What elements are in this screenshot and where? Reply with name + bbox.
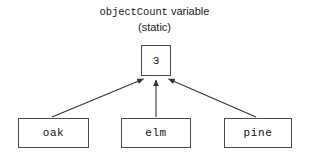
static-qualifier-label: (static) xyxy=(0,20,309,34)
static-variable-box: 3 xyxy=(141,45,171,76)
variable-name-label: objectCount xyxy=(100,6,168,18)
static-variable-value: 3 xyxy=(153,55,160,67)
object-box-elm: elm xyxy=(121,118,191,148)
arrow-oak-to-objectcount xyxy=(52,79,144,117)
object-box-label: pine xyxy=(244,127,273,139)
object-box-label: elm xyxy=(145,127,167,139)
arrow-pine-to-objectcount xyxy=(169,79,257,117)
diagram-title-line-1: objectCount variable xyxy=(0,4,309,19)
object-box-label: oak xyxy=(43,127,65,139)
object-box-pine: pine xyxy=(224,118,292,148)
diagram-title: objectCount variable (static) xyxy=(0,4,309,34)
object-count-static-diagram: objectCount variable (static) 3 oak elm … xyxy=(0,0,309,163)
variable-word-label: variable xyxy=(171,5,210,17)
object-box-oak: oak xyxy=(18,118,89,148)
